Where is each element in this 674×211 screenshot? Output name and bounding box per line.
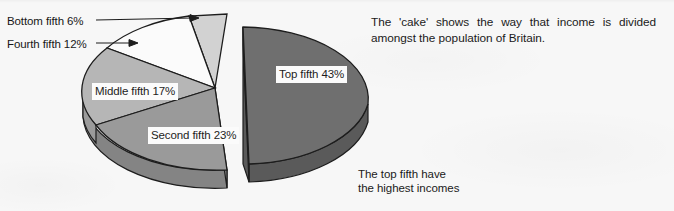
slice-label-middle-fifth: Middle fifth 17% — [92, 83, 178, 100]
body-text-paragraph: The 'cake' shows the way that income is … — [371, 15, 656, 46]
slice-label-bottom-fifth: Bottom fifth 6% — [7, 14, 83, 28]
slice-label-top-fifth: Top fifth 43% — [276, 66, 347, 83]
slice-label-second-fifth: Second fifth 23% — [148, 127, 239, 144]
figure-canvas: Top fifth 43% Second fifth 23% Middle fi… — [0, 0, 674, 211]
pie-group-left — [82, 14, 227, 188]
pie-group-top-fifth-exploded — [243, 27, 368, 182]
caption-top-fifth-note: The top fifth have the highest incomes — [358, 167, 459, 195]
slice-label-fourth-fifth: Fourth fifth 12% — [7, 37, 87, 51]
explanatory-body-text: The 'cake' shows the way that income is … — [371, 15, 656, 46]
